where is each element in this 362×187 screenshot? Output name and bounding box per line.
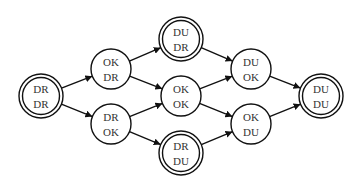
edge-n7-n9 [270, 76, 301, 88]
edge-n1-n2 [62, 76, 93, 88]
node-label-bottom: DU [173, 155, 189, 167]
node-label-top: DR [103, 111, 119, 123]
state-node: DRDU [159, 131, 203, 175]
edge-n2-n4 [129, 48, 160, 61]
edge-n3-n5 [130, 103, 163, 116]
edge-n2-n5 [130, 76, 163, 89]
node-label-top: DU [313, 83, 329, 95]
edge-n3-n6 [129, 132, 160, 145]
state-node: DUDR [159, 17, 203, 61]
state-node: OKOK [161, 76, 201, 116]
node-label-top: DU [173, 26, 189, 38]
state-node: OKDU [231, 104, 271, 144]
state-node: DRDR [19, 74, 63, 118]
node-label-bottom: DU [313, 98, 329, 110]
edge-n6-n8 [201, 132, 232, 145]
node-label-bottom: DR [173, 41, 189, 53]
state-diagram: DRDROKDRDROKDUDROKOKDRDUDUOKOKDUDUDU [0, 0, 362, 187]
node-label-bottom: OK [243, 71, 259, 83]
edge-n8-n9 [270, 104, 301, 116]
state-node: DROK [91, 104, 131, 144]
node-label-top: DR [173, 140, 189, 152]
node-label-bottom: DR [33, 98, 49, 110]
node-label-bottom: DU [243, 126, 259, 138]
node-label-bottom: OK [103, 126, 119, 138]
node-label-top: OK [243, 111, 259, 123]
state-node: DUOK [231, 49, 271, 89]
node-label-top: DU [243, 56, 259, 68]
node-label-top: DR [33, 83, 49, 95]
node-label-bottom: OK [173, 98, 189, 110]
nodes-layer: DRDROKDRDROKDUDROKOKDRDUDUOKOKDUDUDU [19, 17, 343, 175]
edge-n5-n7 [200, 76, 233, 89]
state-node: DUDU [299, 74, 343, 118]
edge-n5-n8 [200, 103, 233, 116]
node-label-top: OK [173, 83, 189, 95]
state-node: OKDR [91, 49, 131, 89]
node-label-bottom: DR [103, 71, 119, 83]
edge-n4-n7 [201, 48, 232, 61]
edge-n1-n3 [61, 104, 92, 116]
node-label-top: OK [103, 56, 119, 68]
